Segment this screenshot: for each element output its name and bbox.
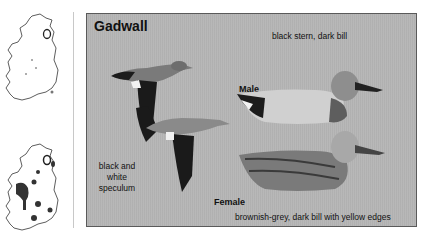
divider — [73, 12, 74, 228]
species-panel: Gadwall black stern, dark bill Male blac… — [86, 13, 417, 227]
ireland-map-wintering-icon — [2, 142, 60, 234]
swimming-male-duck-icon — [235, 68, 395, 130]
flying-female-duck-icon — [132, 106, 242, 196]
species-title: Gadwall — [94, 18, 148, 34]
ireland-map-breeding-icon — [2, 12, 60, 104]
swimming-female-duck-icon — [235, 127, 395, 197]
female-label: Female — [214, 197, 245, 207]
distribution-maps — [0, 0, 72, 237]
male-description: black stern, dark bill — [272, 31, 347, 41]
female-description: brownish-grey, dark bill with yellow edg… — [235, 212, 391, 222]
